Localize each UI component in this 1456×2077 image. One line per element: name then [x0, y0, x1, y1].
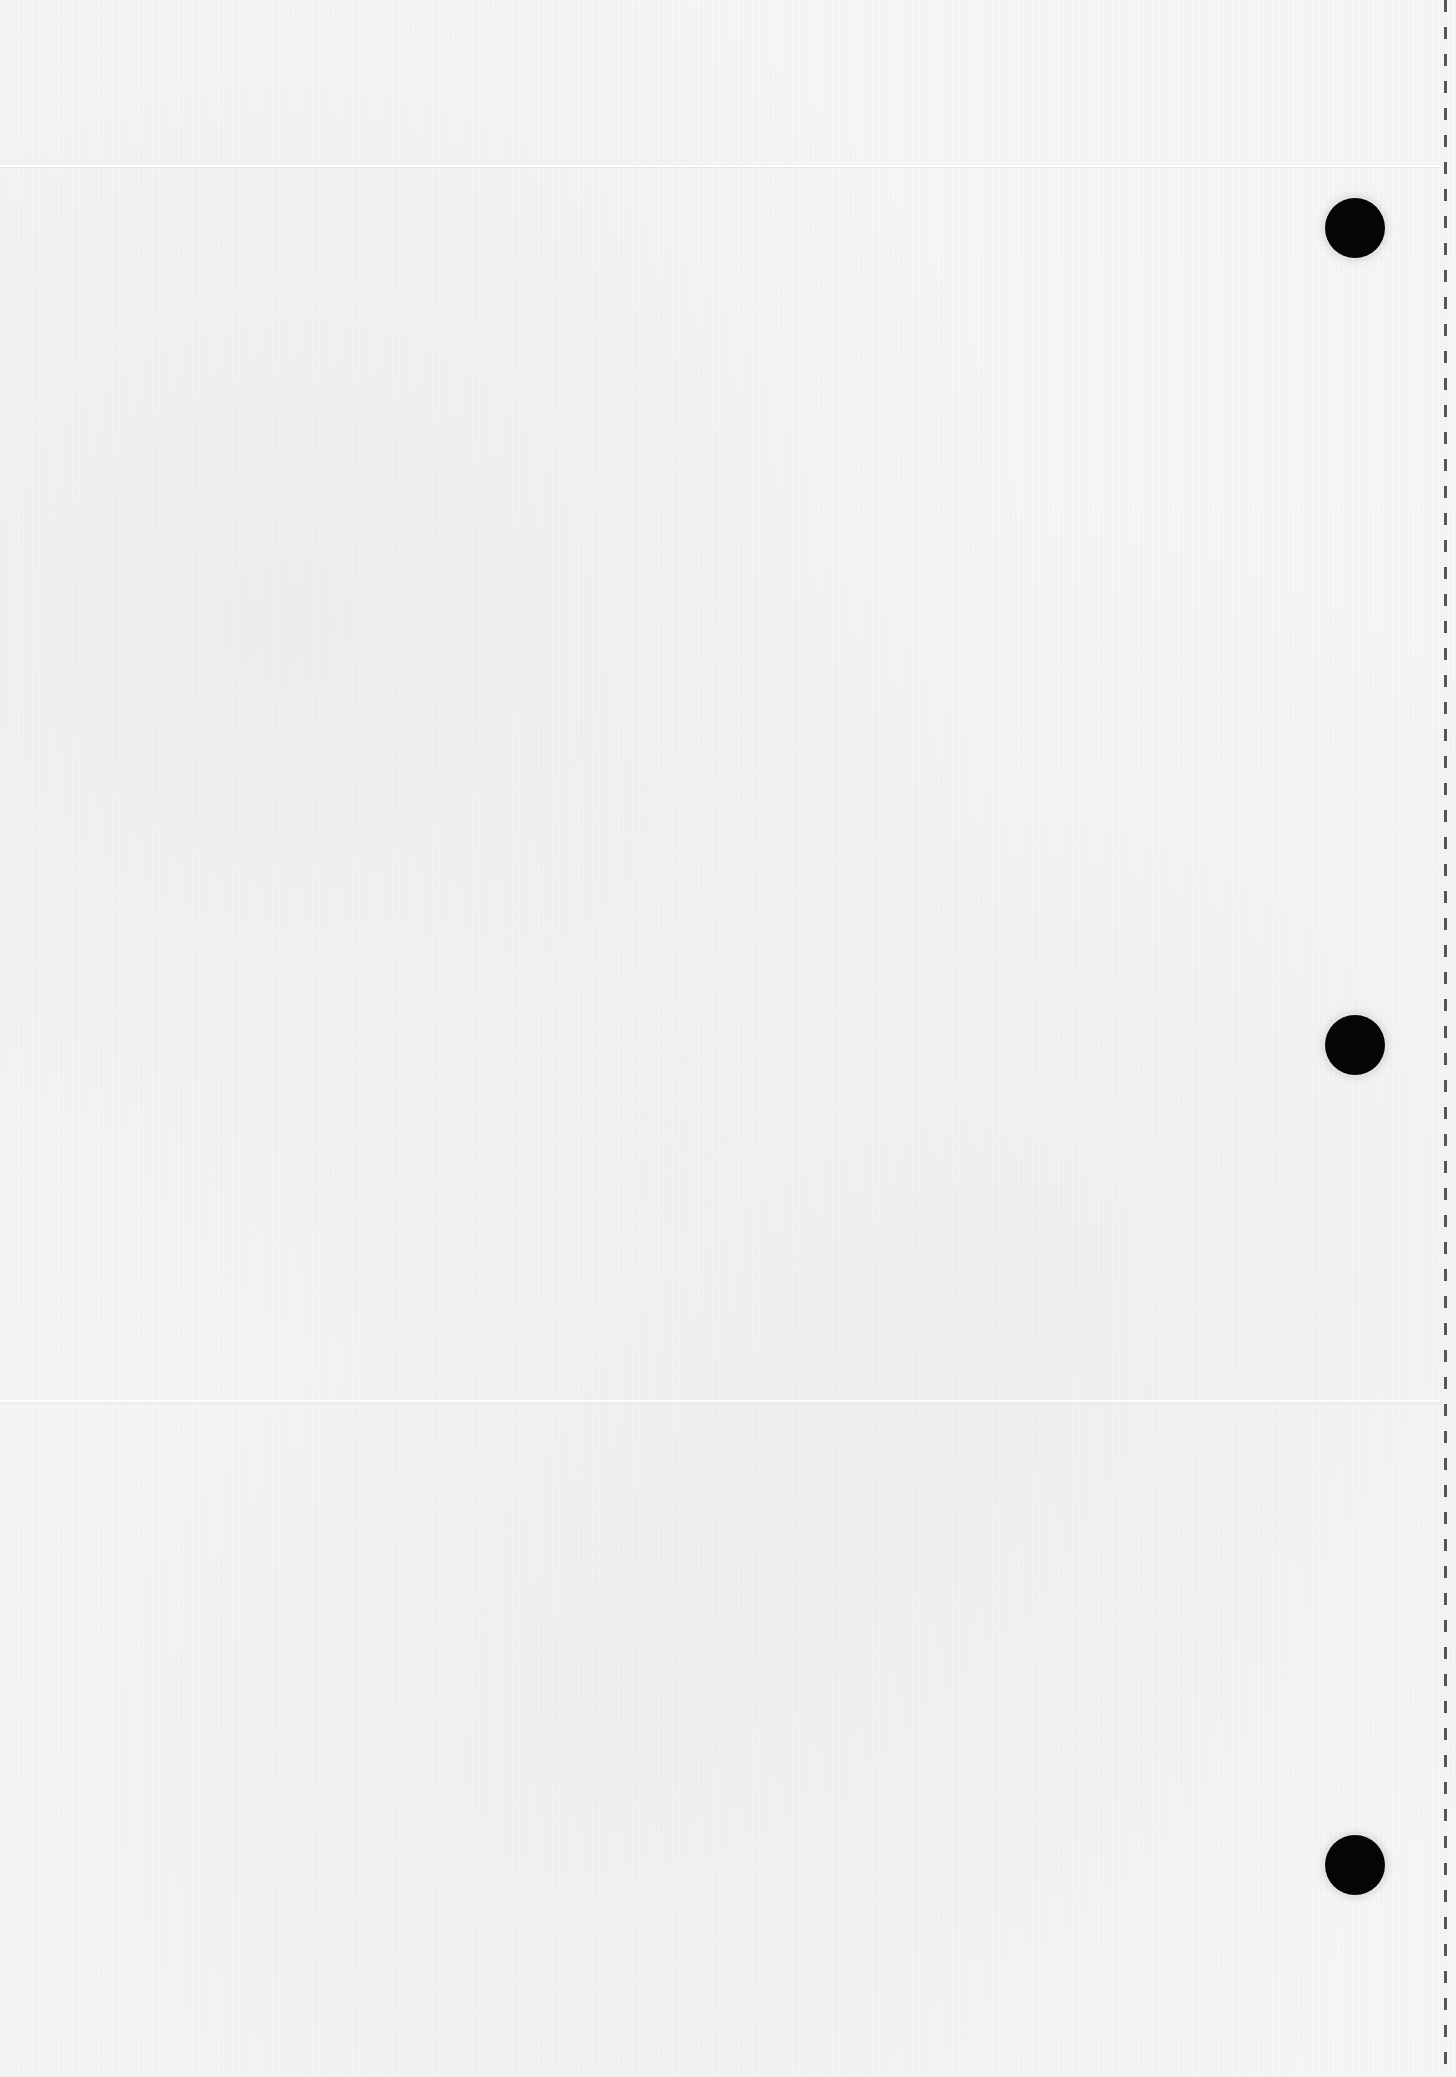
fold-line-top	[0, 165, 1440, 167]
punch-hole-top-icon	[1325, 198, 1385, 258]
paper-sheet	[0, 0, 1456, 2077]
punch-hole-middle-icon	[1325, 1015, 1385, 1075]
page-text	[0, 0, 1, 1]
perforation-line	[1444, 0, 1447, 2077]
fold-line-lower	[0, 1400, 1440, 1402]
punch-hole-bottom-icon	[1325, 1835, 1385, 1895]
